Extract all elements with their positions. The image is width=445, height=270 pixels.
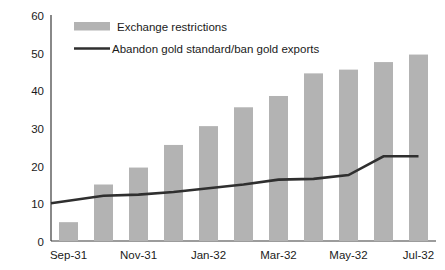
bar-Jul-32 xyxy=(409,55,428,241)
x-tick-label-Nov-31: Nov-31 xyxy=(120,249,157,261)
x-tick-label-May-32: May-32 xyxy=(329,249,367,261)
chart-canvas: 60 50 40 30 20 10 0 Sep-31Nov-31Jan-32Ma… xyxy=(0,0,445,270)
bar-Jun-32 xyxy=(374,62,393,241)
bar-Mar-32 xyxy=(269,96,288,241)
bar-series-exchange-restrictions xyxy=(59,55,428,241)
bar-May-32 xyxy=(339,70,358,241)
x-tick-label-Jan-32: Jan-32 xyxy=(191,249,226,261)
legend-label-abandon-gold-standard: Abandon gold standard/ban gold exports xyxy=(112,43,319,55)
x-tick-label-Sep-31: Sep-31 xyxy=(50,249,87,261)
bar-Oct-31 xyxy=(94,185,113,242)
y-tick-label-50: 50 xyxy=(31,48,44,60)
y-tick-label-20: 20 xyxy=(31,161,44,173)
y-tick-label-30: 30 xyxy=(31,123,44,135)
y-tick-label-0: 0 xyxy=(38,236,44,248)
x-axis-tick-labels: Sep-31Nov-31Jan-32Mar-32May-32Jul-32 xyxy=(50,249,434,261)
bar-Sep-31 xyxy=(59,222,78,241)
bar-Jan-32 xyxy=(199,126,218,241)
bar-Apr-32 xyxy=(304,73,323,241)
y-tick-label-10: 10 xyxy=(31,198,44,210)
chart-container: 60 50 40 30 20 10 0 Sep-31Nov-31Jan-32Ma… xyxy=(0,0,445,270)
bar-Feb-32 xyxy=(234,107,253,241)
legend-label-exchange-restrictions: Exchange restrictions xyxy=(117,21,227,33)
x-tick-label-Jul-32: Jul-32 xyxy=(403,249,434,261)
legend-swatch-bar xyxy=(74,22,110,31)
y-tick-label-40: 40 xyxy=(31,85,44,97)
y-tick-label-60: 60 xyxy=(31,10,44,22)
bar-Nov-31 xyxy=(129,168,148,241)
x-tick-label-Mar-32: Mar-32 xyxy=(260,249,296,261)
chart-legend: Exchange restrictions Abandon gold stand… xyxy=(74,21,319,55)
